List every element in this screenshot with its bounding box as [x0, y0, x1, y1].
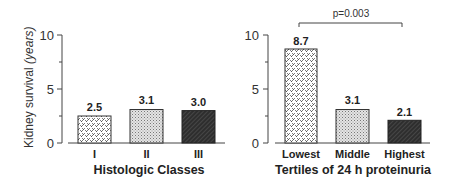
x-tick-III: III	[194, 148, 203, 160]
bar-lowest	[285, 49, 317, 143]
y-tick-0: 0	[47, 136, 54, 151]
value-label-III: 3.0	[191, 96, 206, 108]
value-label-I: 2.5	[87, 101, 102, 113]
bar-class-II	[130, 110, 163, 144]
y-tick-0: 0	[252, 136, 259, 151]
chart-canvas: Kidney survival (years) 10 5 0 2.5 3.1 3…	[0, 0, 450, 187]
y-tick-10: 10	[40, 28, 54, 43]
value-label-II: 3.1	[139, 94, 154, 106]
x-tick-lowest: Lowest	[282, 148, 320, 160]
x-tick-middle: Middle	[335, 148, 370, 160]
chart-proteinuria-tertiles: 10 5 0 8.7 3.1 2.1 Lowest Middle Highest…	[245, 8, 433, 177]
x-axis-title: Histologic Classes	[93, 163, 204, 177]
value-label-lowest: 8.7	[293, 35, 308, 47]
y-tick-5: 5	[47, 82, 54, 97]
bar-class-III	[182, 111, 215, 143]
p-value-annotation: p=0.003	[333, 8, 370, 19]
bar-highest	[388, 120, 421, 143]
y-tick-5: 5	[252, 82, 259, 97]
y-axis-title: Kidney survival (years)	[22, 27, 36, 148]
significance-bracket	[299, 23, 402, 27]
bar-middle	[336, 110, 369, 144]
value-label-highest: 2.1	[397, 106, 412, 118]
x-tick-highest: Highest	[384, 148, 425, 160]
x-tick-II: II	[143, 148, 149, 160]
bar-class-I	[78, 116, 111, 143]
chart-histologic-classes: Kidney survival (years) 10 5 0 2.5 3.1 3…	[22, 27, 225, 177]
x-axis-title: Tertiles of 24 h proteinuria	[275, 163, 432, 177]
x-tick-I: I	[93, 148, 96, 160]
value-label-middle: 3.1	[345, 94, 360, 106]
y-tick-10: 10	[245, 28, 259, 43]
